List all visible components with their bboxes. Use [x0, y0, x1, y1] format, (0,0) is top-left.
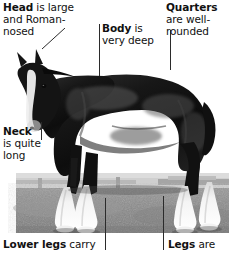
annotation-legs: Legs are: [168, 238, 215, 250]
leader-line-legs: [163, 196, 164, 250]
annotation-quarters-line3: rounded: [166, 25, 217, 37]
annotation-neck-line3: long: [3, 149, 41, 161]
figure-container: Head is large and Roman- nosed Body is v…: [0, 0, 235, 255]
annotation-legs-rest: are: [195, 238, 215, 250]
annotation-quarters: Quarters are well- rounded: [166, 1, 217, 38]
annotation-lower-legs-term: Lower legs: [3, 238, 66, 250]
annotation-neck: Neck is quite long: [3, 125, 41, 162]
annotation-lower-legs-rest: carry: [66, 238, 96, 250]
annotation-head-line2: and Roman-: [3, 13, 74, 25]
leader-line-neck: [41, 122, 42, 140]
annotation-lower-legs: Lower legs carry: [3, 238, 96, 250]
annotation-legs-term: Legs: [168, 238, 195, 250]
annotation-body-line1: is: [131, 22, 142, 34]
annotation-head-line1: is large: [33, 1, 74, 13]
annotation-body-term: Body: [102, 22, 131, 34]
annotation-body-line2: very deep: [102, 34, 154, 46]
leader-line-lower-legs: [105, 198, 106, 250]
annotation-head-term: Head: [3, 1, 33, 13]
annotation-body: Body is very deep: [102, 22, 154, 46]
annotation-head: Head is large and Roman- nosed: [3, 1, 74, 38]
annotation-head-line3: nosed: [3, 25, 74, 37]
annotation-quarters-term: Quarters: [166, 1, 217, 13]
annotation-neck-term: Neck: [3, 125, 32, 137]
annotation-quarters-line2: are well-: [166, 13, 217, 25]
annotation-neck-line2: is quite: [3, 137, 41, 149]
leader-line-body: [99, 24, 100, 76]
